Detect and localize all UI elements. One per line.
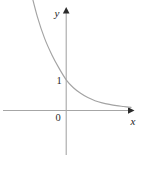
exponential-decay-figure: y x 1 0 <box>0 0 145 174</box>
figure-caption <box>0 164 145 174</box>
y-axis-label: y <box>54 7 60 19</box>
y-intercept-tick-label: 1 <box>57 75 62 86</box>
origin-label: 0 <box>56 112 61 123</box>
x-axis-label: x <box>130 115 136 127</box>
exponential-decay-curve <box>30 0 131 107</box>
y-axis-arrow-icon <box>63 7 70 14</box>
x-axis-arrow-icon <box>128 107 135 114</box>
plot-canvas: y x 1 0 <box>0 0 145 174</box>
